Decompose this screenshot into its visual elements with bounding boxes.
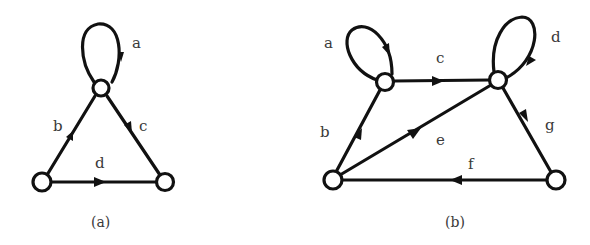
node-top-right xyxy=(490,72,507,89)
edge-label-c: c xyxy=(436,49,444,67)
arrow-icon xyxy=(450,175,462,185)
arrow-icon xyxy=(432,76,444,86)
edge-label-b: b xyxy=(53,117,63,135)
edge-label-d: d xyxy=(551,28,561,46)
edge-label-g: g xyxy=(545,116,555,134)
edge-label-b: b xyxy=(320,123,330,141)
edge-a-loop xyxy=(83,24,120,82)
arrow-icon xyxy=(382,43,390,56)
edge-label-f: f xyxy=(468,155,475,173)
edge-label-e: e xyxy=(436,131,445,149)
diagram-canvas: a b c d (a) a b c d e xyxy=(0,0,590,245)
caption-b: (b) xyxy=(445,214,465,230)
node-top-left xyxy=(377,74,394,91)
edge-label-a: a xyxy=(132,34,141,52)
edge-c xyxy=(107,96,160,175)
graph-b: a b c d e f g (b) xyxy=(320,17,565,230)
node-top xyxy=(93,80,109,96)
node-bottom-right xyxy=(157,174,174,191)
edge-label-d: d xyxy=(95,154,105,172)
arrow-icon xyxy=(94,177,106,187)
edge-g xyxy=(503,88,551,172)
edge-label-a: a xyxy=(324,34,333,52)
node-bottom-left xyxy=(324,171,342,189)
caption-a: (a) xyxy=(91,214,110,230)
node-bottom-right xyxy=(547,171,565,189)
edge-b xyxy=(336,90,380,172)
node-bottom-left xyxy=(33,173,51,191)
edge-d-loop xyxy=(493,17,534,78)
graph-a: a b c d (a) xyxy=(33,24,174,230)
edge-label-c: c xyxy=(139,117,147,135)
